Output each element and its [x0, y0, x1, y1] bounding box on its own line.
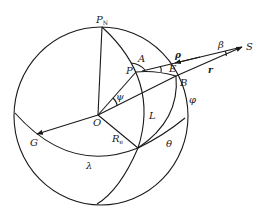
label-station: E — [169, 64, 176, 74]
elevation-arc — [160, 66, 161, 72]
label-center: O — [93, 118, 101, 128]
label-beta: β — [218, 40, 224, 50]
label-l: L — [149, 111, 156, 121]
meridian-p — [97, 27, 144, 204]
label-radius: Re — [112, 134, 123, 145]
label-sub-satellite-point: P — [126, 66, 133, 76]
label-satellite: S — [246, 42, 253, 52]
label-r: r — [208, 66, 213, 75]
line-o-b — [98, 76, 176, 115]
label-psi: ψ — [116, 92, 124, 102]
label-theta: θ — [166, 139, 172, 149]
label-greenwich: G — [30, 138, 38, 148]
label-azimuth: A — [138, 54, 145, 64]
line-o-g — [37, 115, 98, 134]
label-rho: ρ — [175, 51, 181, 60]
label-ground-point: B — [180, 78, 187, 88]
polar-axis — [98, 27, 102, 115]
earth-geometry-diagram — [0, 0, 261, 215]
label-north-pole: PN — [96, 15, 108, 26]
beta-arc — [225, 51, 226, 56]
label-phi: φ — [189, 95, 196, 105]
label-lambda: λ — [86, 161, 92, 171]
